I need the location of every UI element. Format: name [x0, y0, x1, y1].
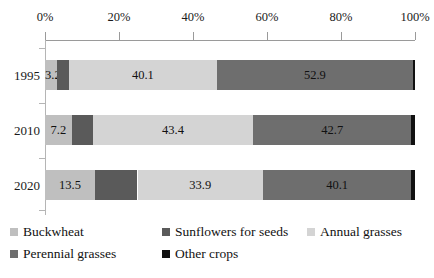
x-axis-tick-label: 20% [108, 10, 131, 24]
x-axis-tick-label: 0% [37, 10, 54, 24]
x-axis-tick-labels: 0%20%40%60%80%100% [45, 10, 415, 28]
legend-label: Perennial grasses [23, 246, 116, 262]
x-axis-tick-label: 80% [330, 10, 353, 24]
bar-segment [57, 60, 69, 90]
x-axis-tick-label: 40% [182, 10, 205, 24]
legend-item[interactable]: Annual grasses [307, 224, 402, 240]
legend-swatch-icon [162, 250, 170, 258]
x-axis-line [45, 40, 415, 41]
x-axis-tick-mark [45, 32, 46, 40]
y-axis-category-label: 2010 [0, 123, 40, 138]
y-axis-tick-mark [39, 210, 45, 211]
legend-swatch-icon [10, 228, 18, 236]
bar-segment [93, 115, 254, 145]
bar-segment [263, 170, 411, 200]
bar-segment [95, 170, 138, 200]
bar-row: 13.533.940.1 [45, 170, 415, 200]
x-axis-tick-mark [415, 32, 416, 40]
bar-segment [413, 60, 415, 90]
bar-segment [253, 115, 411, 145]
bar-segment [411, 170, 415, 200]
chart-legend: BuckwheatSunflowers for seedsAnnual gras… [10, 222, 430, 266]
x-axis-tick-mark [341, 32, 342, 40]
legend-label: Annual grasses [320, 224, 402, 240]
x-axis-tick-mark [119, 32, 120, 40]
plot-area: 3.240.152.97.243.442.713.533.940.1 [45, 48, 415, 208]
bar-row: 3.240.152.9 [45, 60, 415, 90]
bar-segment [138, 170, 263, 200]
bar-segment [69, 60, 217, 90]
legend-label: Sunflowers for seeds [175, 224, 288, 240]
legend-label: Other crops [175, 246, 238, 262]
stacked-bar-chart: 0%20%40%60%80%100% 199520102020 3.240.15… [0, 0, 434, 278]
legend-row-top: BuckwheatSunflowers for seedsAnnual gras… [10, 222, 430, 244]
bar-segment [45, 60, 57, 90]
bar-segment [217, 60, 413, 90]
y-axis-category-label: 2020 [0, 178, 40, 193]
legend-label: Buckwheat [23, 224, 84, 240]
x-axis-tick-mark [193, 32, 194, 40]
bar-segment [45, 170, 95, 200]
legend-swatch-icon [162, 228, 170, 236]
bar-row: 7.243.442.7 [45, 115, 415, 145]
y-axis-category-label: 1995 [0, 68, 40, 83]
legend-swatch-icon [10, 250, 18, 258]
legend-item[interactable]: Other crops [162, 246, 238, 262]
bar-segment [411, 115, 415, 145]
legend-item[interactable]: Sunflowers for seeds [162, 224, 288, 240]
x-axis-tick-mark [267, 32, 268, 40]
legend-item[interactable]: Buckwheat [10, 224, 84, 240]
legend-swatch-icon [307, 228, 315, 236]
legend-row-bottom: Perennial grassesOther crops [10, 244, 430, 266]
legend-item[interactable]: Perennial grasses [10, 246, 116, 262]
bar-segment [72, 115, 93, 145]
x-axis-tick-label: 60% [256, 10, 279, 24]
x-axis-tick-label: 100% [400, 10, 429, 24]
bar-segment [45, 115, 72, 145]
